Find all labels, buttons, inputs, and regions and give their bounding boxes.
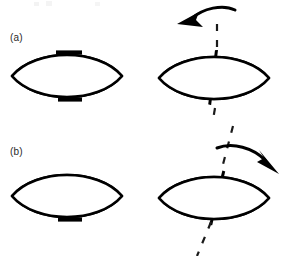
panel-a-left-eye (2, 36, 152, 116)
panel-a-right-eye (147, 2, 289, 120)
dashed-reference-axis (221, 126, 233, 172)
eyelid-outline-overlay (159, 177, 269, 219)
dashed-reference-axis-lower (213, 108, 215, 120)
scan-artifact (34, 2, 39, 6)
eyelid-outline-overlay (159, 57, 269, 99)
dashed-reference-axis-lower (197, 222, 211, 256)
rotation-arrow-clockwise-head (257, 150, 279, 174)
eyelid-outline-overlay (12, 55, 122, 97)
panel-b-right-eye (147, 122, 289, 256)
scan-artifact (46, 1, 52, 6)
scan-artifact (95, 2, 100, 6)
panel-b-left-eye (2, 156, 152, 236)
eye-torsion-figure: (a) (0, 0, 289, 256)
eyelid-outline-overlay (12, 175, 122, 217)
